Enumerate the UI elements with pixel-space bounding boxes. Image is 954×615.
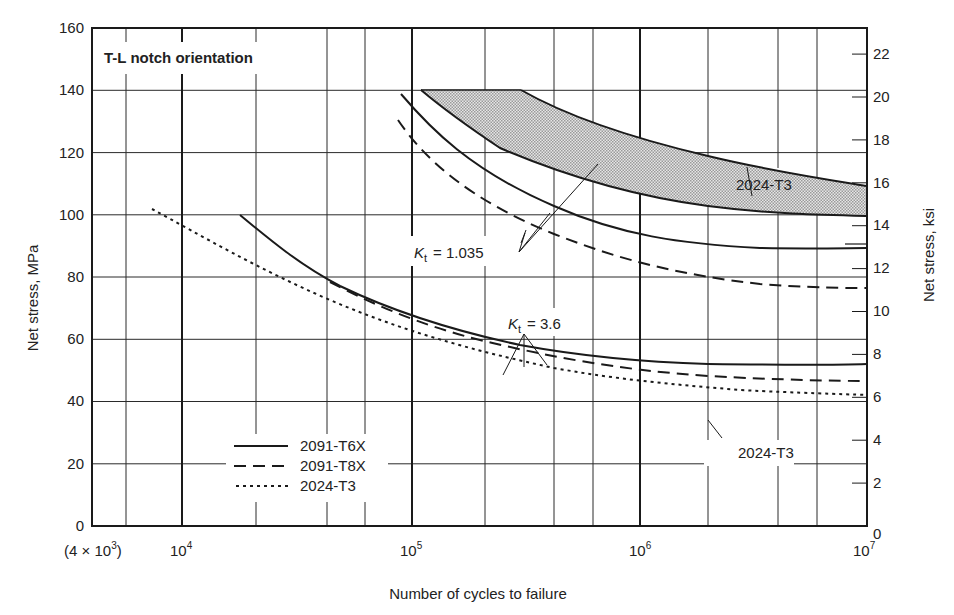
fatigue-chart: T-L notch orientation Kt= 1.035 Kt= 3.6 …	[0, 0, 954, 615]
y-tick-120: 120	[59, 144, 84, 161]
chart-title: T-L notch orientation	[104, 49, 253, 66]
ksi-tick-12: 12	[873, 259, 890, 276]
y-tick-80: 80	[67, 268, 84, 285]
right-axis-ticks	[852, 54, 867, 483]
ksi-tick-8: 8	[873, 345, 881, 362]
ksi-tick-14: 14	[873, 216, 890, 233]
ksi-tick-10: 10	[873, 302, 890, 319]
y-axis-title-left: Net stress, MPa	[24, 244, 41, 351]
legend-label-2024-t3: 2024-T3	[300, 477, 356, 494]
right-axis-labels: 0 2 4 6 8 10 12 14 16 18 20 22	[873, 45, 890, 542]
y-tick-60: 60	[67, 330, 84, 347]
y-tick-140: 140	[59, 81, 84, 98]
ksi-tick-2: 2	[873, 474, 881, 491]
ksi-tick-20: 20	[873, 88, 890, 105]
ksi-tick-22: 22	[873, 45, 890, 62]
legend-label-2091-t8x: 2091-T8X	[300, 457, 366, 474]
y-tick-40: 40	[67, 392, 84, 409]
ksi-tick-18: 18	[873, 131, 890, 148]
series-2091-t8x-kt36	[330, 282, 867, 381]
horizontal-gridlines	[92, 90, 867, 464]
band-label-2024-t3: 2024-T3	[736, 176, 792, 193]
y-tick-160: 160	[59, 19, 84, 36]
x-axis-labels: (4 × 103) 104 105 106 107	[64, 540, 876, 559]
x-tick-4e3: (4 × 103)	[64, 540, 122, 559]
legend-label-2091-t6x: 2091-T6X	[300, 437, 366, 454]
y-tick-20: 20	[67, 455, 84, 472]
dotted-label-2024-t3: 2024-T3	[738, 444, 794, 461]
ksi-tick-4: 4	[873, 431, 881, 448]
y-tick-0: 0	[76, 517, 84, 534]
x-tick-1e5: 105	[400, 540, 423, 559]
y-axis-title-right: Net stress, ksi	[920, 208, 937, 302]
ksi-tick-6: 6	[873, 388, 881, 405]
x-axis-title: Number of cycles to failure	[389, 585, 567, 602]
x-tick-1e4: 104	[170, 540, 193, 559]
ksi-tick-16: 16	[873, 174, 890, 191]
y-tick-100: 100	[59, 206, 84, 223]
x-tick-1e6: 106	[629, 540, 652, 559]
x-tick-1e7: 107	[853, 540, 876, 559]
left-axis-labels: 0 20 40 60 80 100 120 140 160	[59, 19, 84, 534]
